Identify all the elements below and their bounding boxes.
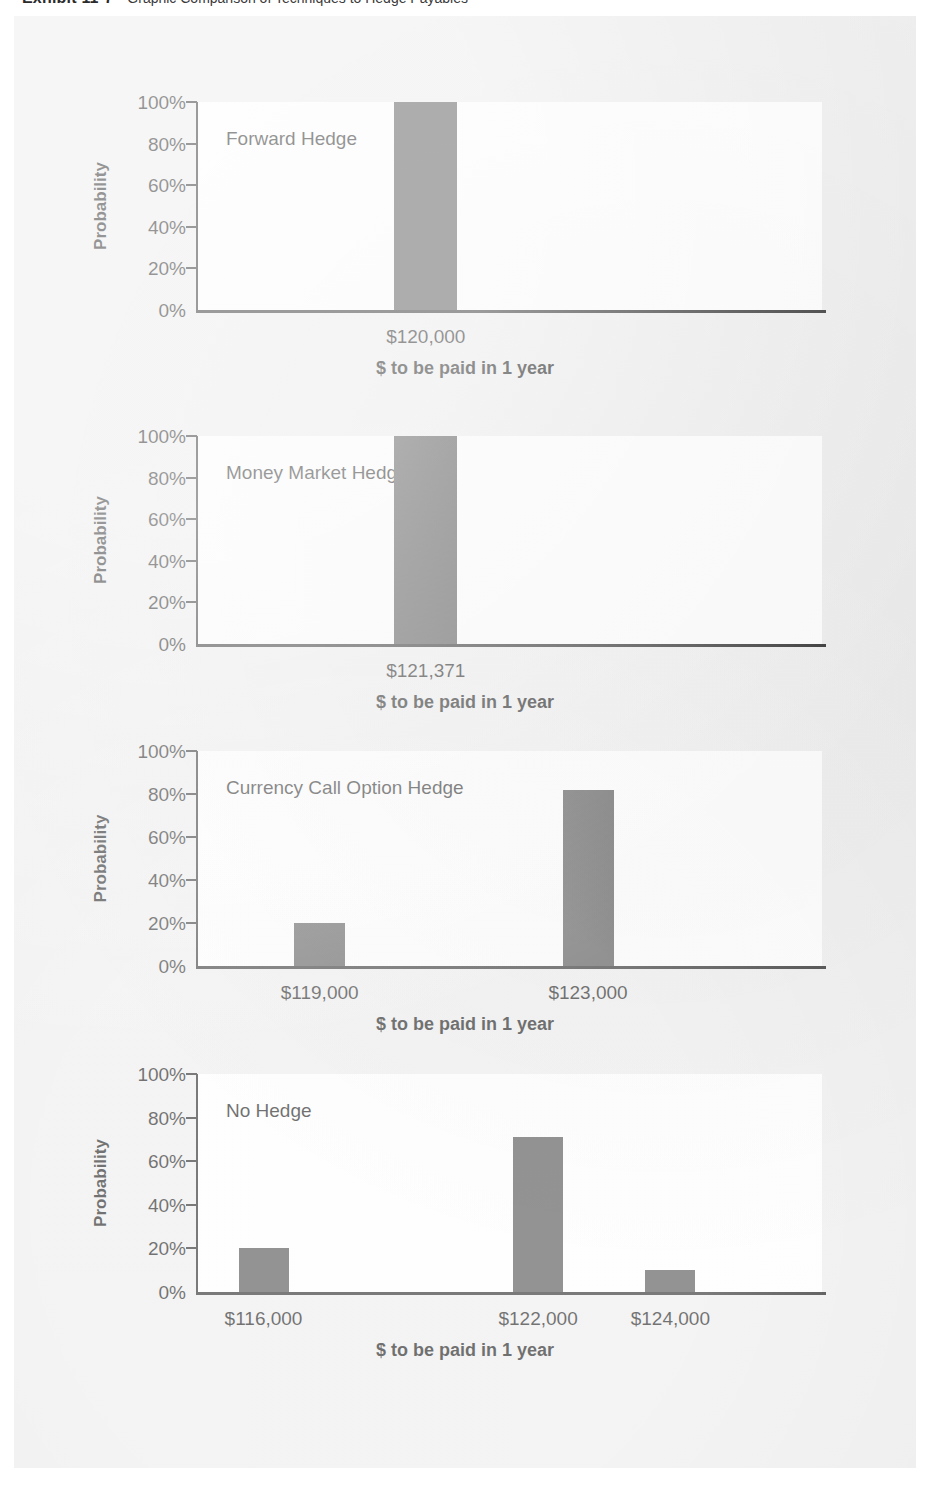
y-tick-label: 80% <box>148 785 186 804</box>
y-tick-mark <box>186 267 197 269</box>
y-tick-label: 0% <box>159 635 186 654</box>
x-axis-title: $ to be paid in 1 year <box>14 692 916 713</box>
y-tick-mark <box>186 1160 197 1162</box>
x-category-label: $116,000 <box>225 1308 303 1330</box>
y-tick-mark <box>186 143 197 145</box>
y-tick-mark <box>186 518 197 520</box>
y-tick-mark <box>186 477 197 479</box>
y-axis-title: Probability <box>57 751 83 966</box>
y-tick-mark <box>186 793 197 795</box>
y-tick-label: 20% <box>148 1239 186 1258</box>
y-tick-mark <box>186 601 197 603</box>
y-tick-mark <box>186 922 197 924</box>
y-axis-ticks: 0%20%40%60%80%100% <box>92 751 186 966</box>
y-tick-mark <box>186 879 197 881</box>
exhibit-caption-text: Graphic Comparison of Techniques to Hedg… <box>127 0 468 6</box>
y-tick-mark <box>186 101 197 103</box>
x-axis-title: $ to be paid in 1 year <box>14 1340 916 1361</box>
chart-series-label: Currency Call Option Hedge <box>226 777 464 799</box>
x-axis-title: $ to be paid in 1 year <box>14 358 916 379</box>
bar <box>239 1248 289 1292</box>
y-tick-label: 20% <box>148 259 186 278</box>
y-tick-label: 60% <box>148 1152 186 1171</box>
y-tick-label: 0% <box>159 1283 186 1302</box>
y-tick-label: 20% <box>148 914 186 933</box>
y-axis-title: Probability <box>57 102 83 310</box>
bar <box>394 102 457 310</box>
bar <box>645 1270 695 1292</box>
x-axis-title: $ to be paid in 1 year <box>14 1014 916 1035</box>
x-category-label: $122,000 <box>498 1308 577 1330</box>
y-tick-label: 100% <box>137 93 186 112</box>
y-tick-mark <box>186 836 197 838</box>
exhibit-caption: Exhibit 11-7Graphic Comparison of Techni… <box>22 0 902 6</box>
x-axis-line <box>196 966 826 969</box>
y-axis-title: Probability <box>57 436 83 644</box>
y-tick-mark <box>186 1247 197 1249</box>
y-tick-label: 40% <box>148 217 186 236</box>
y-tick-mark <box>186 435 197 437</box>
y-tick-mark <box>186 750 197 752</box>
y-tick-mark <box>186 560 197 562</box>
y-tick-label: 80% <box>148 1108 186 1127</box>
y-axis-ticks: 0%20%40%60%80%100% <box>92 102 186 310</box>
y-tick-mark <box>186 184 197 186</box>
bar <box>294 923 345 966</box>
y-tick-label: 40% <box>148 551 186 570</box>
y-tick-label: 60% <box>148 510 186 529</box>
bar <box>394 436 457 644</box>
y-tick-label: 80% <box>148 468 186 487</box>
bar <box>513 1137 563 1292</box>
y-axis-title: Probability <box>57 1074 83 1292</box>
y-tick-label: 60% <box>148 176 186 195</box>
y-tick-mark <box>186 226 197 228</box>
chart-series-label: Forward Hedge <box>226 128 357 150</box>
chart-series-label: No Hedge <box>226 1100 312 1122</box>
x-category-label: $119,000 <box>281 982 359 1004</box>
y-tick-label: 60% <box>148 828 186 847</box>
y-tick-mark <box>186 1204 197 1206</box>
x-axis-line <box>196 1292 826 1295</box>
x-category-label: $120,000 <box>386 326 465 348</box>
y-tick-label: 100% <box>137 742 186 761</box>
y-tick-label: 0% <box>159 957 186 976</box>
x-category-label: $121,371 <box>386 660 465 682</box>
x-category-label: $123,000 <box>548 982 627 1004</box>
y-tick-label: 40% <box>148 1195 186 1214</box>
bar <box>563 790 614 966</box>
y-tick-label: 100% <box>137 427 186 446</box>
y-tick-label: 80% <box>148 134 186 153</box>
y-tick-mark <box>186 1073 197 1075</box>
figure-panel: Probability0%20%40%60%80%100%Forward Hed… <box>14 16 916 1468</box>
exhibit-label: Exhibit 11-7 <box>22 0 113 6</box>
x-axis-line <box>196 644 826 647</box>
y-tick-label: 0% <box>159 301 186 320</box>
x-category-label: $124,000 <box>631 1308 710 1330</box>
y-tick-label: 40% <box>148 871 186 890</box>
x-axis-line <box>196 310 826 313</box>
y-axis-ticks: 0%20%40%60%80%100% <box>92 1074 186 1292</box>
y-axis-ticks: 0%20%40%60%80%100% <box>92 436 186 644</box>
y-tick-mark <box>186 1117 197 1119</box>
chart-series-label: Money Market Hedge <box>226 462 408 484</box>
y-tick-label: 100% <box>137 1065 186 1084</box>
y-tick-label: 20% <box>148 593 186 612</box>
